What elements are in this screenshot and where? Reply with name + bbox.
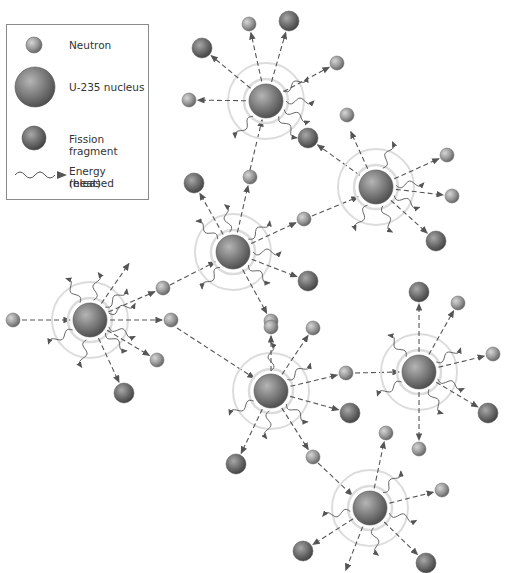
legend-label-neutron: Neutron	[69, 39, 111, 51]
neutron-path-arrow	[98, 338, 118, 382]
neutron-path-arrow	[198, 100, 246, 101]
neutron-path-arrow	[272, 33, 286, 82]
fission-fragment	[279, 11, 299, 31]
neutron	[297, 212, 311, 226]
neutron-path-arrow	[384, 522, 417, 555]
legend-label-u235: U-235 nucleus	[69, 81, 144, 93]
neutron-path-arrow	[312, 197, 358, 216]
energy-wavy-arrow	[383, 142, 394, 168]
energy-wavy-arrow	[428, 389, 443, 413]
neutron-path-arrow	[429, 311, 454, 355]
legend-label-energy-heat: (heat)	[69, 177, 101, 189]
neutron-path-arrow	[108, 292, 154, 312]
fission-fragment	[226, 454, 246, 474]
neutron	[445, 189, 459, 203]
fission-fragment	[184, 173, 204, 193]
neutron-path-arrow	[237, 186, 248, 233]
neutron	[440, 148, 454, 162]
neutron	[264, 320, 278, 334]
neutron-path-arrow	[313, 519, 353, 545]
wavy-arrow-icon	[13, 167, 69, 181]
neutron	[156, 281, 170, 295]
energy-wavy-arrow	[396, 181, 424, 188]
u235-nucleus	[254, 374, 288, 408]
fission-fragment-icon	[19, 123, 49, 153]
legend-item-u235: U-235 nucleus	[7, 63, 148, 111]
u235-nucleus	[216, 235, 250, 269]
neutron-path-arrow	[318, 145, 360, 175]
neutron	[243, 170, 257, 184]
neutron-path-arrow	[282, 335, 308, 374]
fission-fragment	[298, 271, 318, 291]
neutron-path-arrow	[394, 159, 439, 179]
energy-wavy-arrow	[323, 509, 351, 517]
legend-item-fragment: Fission fragment	[7, 123, 148, 155]
neutron-icon	[24, 35, 44, 55]
neutron-path-arrow	[211, 56, 250, 89]
fission-fragment	[114, 383, 134, 403]
neutron	[330, 56, 344, 70]
neutron	[6, 313, 20, 327]
neutron	[164, 313, 178, 327]
neutron-path-arrow	[107, 330, 149, 355]
neutron	[486, 347, 500, 361]
energy-wavy-arrow	[66, 278, 81, 302]
neutron-path-arrow	[396, 189, 443, 195]
energy-wavy-arrow	[371, 528, 379, 556]
neutron-path-arrow	[250, 120, 262, 170]
energy-wavy-arrow	[377, 381, 401, 396]
energy-wavy-arrow	[286, 98, 314, 104]
fission-fragment	[409, 282, 429, 302]
neutron	[340, 108, 354, 122]
energy-wavy-arrow	[389, 513, 416, 522]
legend-item-neutron: Neutron	[7, 33, 148, 57]
neutron	[182, 93, 196, 107]
neutron-path-arrow	[389, 492, 433, 503]
neutron-path-arrow	[290, 375, 337, 386]
u235-nucleus	[359, 170, 393, 204]
neutron-path-arrow	[282, 408, 308, 450]
energy-wavy-arrow	[253, 249, 281, 255]
energy-wavy-arrow	[80, 340, 88, 368]
energy-wavy-arrow	[264, 411, 271, 439]
neutron-path-arrow	[251, 223, 296, 244]
neutron	[306, 450, 320, 464]
u235-nucleus	[249, 84, 283, 118]
neutron-path-arrow	[252, 259, 297, 276]
neutron-path-arrow	[290, 396, 338, 409]
neutron	[306, 321, 320, 335]
u235-nucleus-icon	[13, 65, 57, 109]
legend-item-energy: Energy released (heat)	[7, 165, 148, 195]
neutron	[339, 366, 353, 380]
fission-fragment	[192, 38, 212, 58]
energy-wavy-arrow	[48, 329, 72, 344]
u235-nucleus	[402, 355, 436, 389]
u235-nucleus	[353, 491, 387, 525]
energy-wavy-arrow	[109, 304, 135, 315]
neutron	[435, 483, 449, 497]
energy-wavy-arrow	[224, 205, 232, 233]
energy-wavy-arrow	[229, 400, 253, 415]
neutron-path-arrow	[346, 527, 363, 571]
fission-fragment	[426, 231, 446, 251]
energy-wavy-arrow	[284, 110, 309, 123]
energy-wavy-arrow	[109, 327, 135, 338]
u235-nucleus	[73, 303, 107, 337]
neutron-path-arrow	[177, 328, 254, 378]
neutron-path-arrow	[101, 264, 129, 304]
neutron-path-arrow	[241, 409, 262, 453]
neutron-path-arrow	[374, 442, 384, 489]
fission-fragment	[298, 128, 318, 148]
neutron	[150, 353, 164, 367]
fission-fragment	[478, 403, 498, 423]
energy-wavy-arrow	[93, 273, 101, 301]
neutron-path-arrow	[438, 356, 484, 367]
neutron	[412, 442, 426, 456]
fission-fragment	[293, 541, 313, 561]
energy-wavy-arrow	[381, 206, 392, 232]
neutron-path-arrow	[251, 33, 262, 82]
energy-wavy-arrow	[355, 205, 368, 230]
legend: Neutron U-235 nucleus Fission fragment E…	[6, 24, 149, 200]
energy-wavy-arrow	[438, 379, 464, 390]
legend-label-fragment: Fission fragment	[69, 133, 148, 157]
